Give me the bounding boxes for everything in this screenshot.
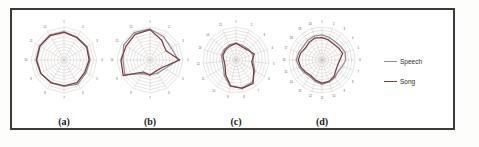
svg-text:5: 5 bbox=[273, 62, 275, 66]
svg-text:5: 5 bbox=[182, 77, 184, 81]
radar-panel-a: 123456789101112 (a) bbox=[18, 14, 110, 128]
svg-text:6: 6 bbox=[359, 58, 361, 62]
radar-svg-b: 123456789101112 bbox=[104, 14, 196, 110]
radar-series-speech bbox=[123, 29, 178, 75]
radar-svg-d: 1234567891011121314151617181920 bbox=[276, 14, 368, 110]
svg-text:17: 17 bbox=[284, 46, 287, 50]
svg-text:12: 12 bbox=[130, 25, 133, 29]
svg-text:8: 8 bbox=[243, 95, 245, 99]
radar-svg-c: 123456789101112131415 bbox=[190, 14, 282, 110]
svg-text:13: 13 bbox=[198, 46, 201, 50]
svg-text:1: 1 bbox=[63, 20, 65, 24]
svg-text:13: 13 bbox=[298, 89, 301, 93]
svg-text:3: 3 bbox=[96, 39, 98, 43]
svg-text:1: 1 bbox=[321, 20, 323, 24]
svg-text:5: 5 bbox=[96, 77, 98, 81]
svg-text:2: 2 bbox=[251, 23, 253, 27]
svg-text:10: 10 bbox=[212, 89, 215, 93]
svg-text:9: 9 bbox=[30, 77, 32, 81]
radar-plot-c: 123456789101112131415 bbox=[190, 14, 282, 110]
svg-text:9: 9 bbox=[344, 89, 346, 93]
svg-text:4: 4 bbox=[101, 58, 103, 62]
svg-text:11: 11 bbox=[30, 39, 33, 43]
svg-text:4: 4 bbox=[352, 36, 354, 40]
svg-text:3: 3 bbox=[344, 27, 346, 31]
legend-label-speech: Speech bbox=[400, 58, 422, 65]
panel-caption-c: (c) bbox=[190, 116, 282, 127]
radar-gridlines bbox=[117, 27, 183, 93]
svg-text:6: 6 bbox=[82, 91, 84, 95]
legend-item-song: Song bbox=[384, 74, 452, 88]
svg-text:7: 7 bbox=[258, 89, 260, 93]
legend-line-icon-song bbox=[384, 81, 397, 82]
radar-series-speech bbox=[36, 32, 90, 87]
radar-svg-a: 123456789101112 bbox=[18, 14, 110, 110]
svg-text:20: 20 bbox=[309, 22, 312, 26]
svg-text:1: 1 bbox=[149, 20, 151, 24]
legend-label-song: Song bbox=[400, 78, 415, 85]
svg-text:10: 10 bbox=[332, 94, 335, 98]
svg-text:16: 16 bbox=[283, 58, 286, 62]
svg-text:9: 9 bbox=[227, 95, 229, 99]
svg-text:14: 14 bbox=[290, 80, 293, 84]
radar-gridlines bbox=[203, 27, 269, 92]
svg-text:7: 7 bbox=[357, 70, 359, 74]
svg-text:7: 7 bbox=[149, 96, 151, 100]
svg-text:8: 8 bbox=[44, 91, 46, 95]
svg-text:4: 4 bbox=[271, 46, 273, 50]
legend: Speech Song bbox=[384, 54, 452, 94]
svg-text:10: 10 bbox=[111, 58, 114, 62]
svg-text:3: 3 bbox=[264, 33, 266, 37]
svg-text:5: 5 bbox=[357, 46, 359, 50]
svg-text:8: 8 bbox=[352, 80, 354, 84]
svg-text:2: 2 bbox=[82, 25, 84, 29]
svg-text:15: 15 bbox=[219, 23, 222, 27]
svg-text:2: 2 bbox=[333, 22, 335, 26]
panel-caption-d: (d) bbox=[276, 116, 368, 127]
svg-text:3: 3 bbox=[182, 39, 184, 43]
svg-text:7: 7 bbox=[63, 96, 65, 100]
radar-panel-b: 123456789101112 (b) bbox=[104, 14, 196, 128]
radar-panel-c: 123456789101112131415 (c) bbox=[190, 14, 282, 128]
svg-text:10: 10 bbox=[25, 58, 28, 62]
radar-plot-d: 1234567891011121314151617181920 bbox=[276, 14, 368, 110]
legend-line-icon-speech bbox=[384, 61, 397, 62]
radar-plot-b: 123456789101112 bbox=[104, 14, 196, 110]
svg-text:12: 12 bbox=[44, 25, 47, 29]
svg-text:12: 12 bbox=[197, 62, 200, 66]
legend-item-speech: Speech bbox=[384, 54, 452, 68]
svg-text:6: 6 bbox=[268, 77, 270, 81]
svg-text:11: 11 bbox=[116, 39, 119, 43]
panel-caption-a: (a) bbox=[18, 116, 110, 127]
svg-text:18: 18 bbox=[290, 36, 293, 40]
svg-text:14: 14 bbox=[206, 33, 209, 37]
radar-panel-d: 1234567891011121314151617181920 (d) bbox=[276, 14, 368, 128]
svg-text:6: 6 bbox=[168, 91, 170, 95]
svg-text:2: 2 bbox=[168, 25, 170, 29]
svg-text:1: 1 bbox=[235, 20, 237, 24]
svg-text:12: 12 bbox=[309, 94, 312, 98]
panel-caption-b: (b) bbox=[104, 116, 196, 127]
svg-text:11: 11 bbox=[202, 77, 205, 81]
radar-gridlines bbox=[31, 27, 97, 93]
svg-text:15: 15 bbox=[284, 70, 287, 74]
svg-text:9: 9 bbox=[116, 77, 118, 81]
svg-text:8: 8 bbox=[130, 91, 132, 95]
radar-plot-a: 123456789101112 bbox=[18, 14, 110, 110]
svg-text:11: 11 bbox=[321, 96, 324, 100]
figure-frame: 123456789101112 (a) 123456789101112 (b) … bbox=[10, 8, 455, 130]
svg-text:19: 19 bbox=[298, 27, 301, 31]
svg-text:4: 4 bbox=[187, 58, 189, 62]
